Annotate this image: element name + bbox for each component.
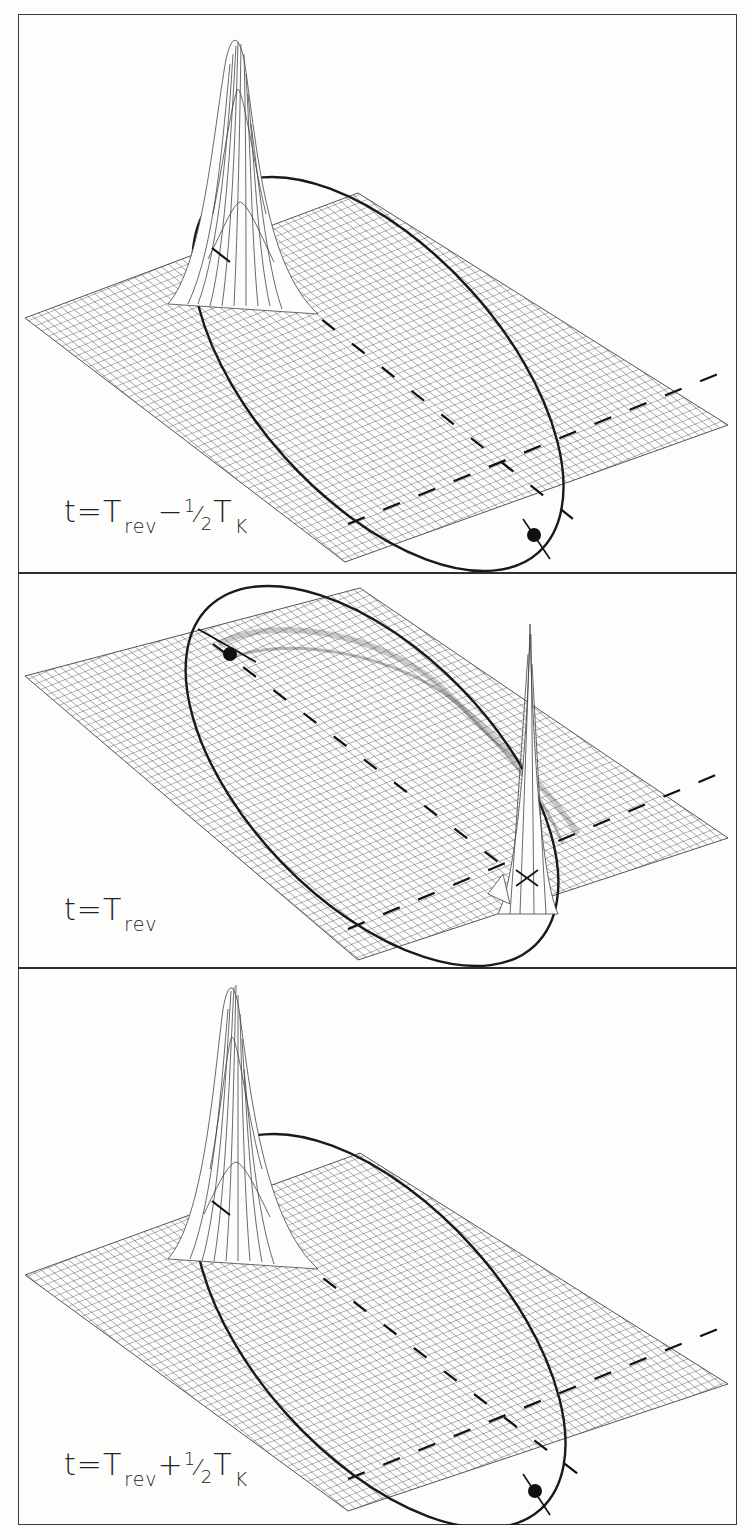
wavepacket-plot-3: [18, 969, 737, 1525]
panel-2: t=Trev: [18, 574, 737, 968]
time-label-1: t=Trev−1⁄2TK: [64, 494, 248, 529]
panel-1: t=Trev−1⁄2TK: [18, 14, 737, 573]
time-label-3: t=Trev+1⁄2TK: [64, 1447, 248, 1482]
position-marker: [223, 647, 237, 661]
panel-3: t=Trev+1⁄2TK: [18, 969, 737, 1525]
time-label-2: t=Trev: [64, 892, 158, 927]
wavepacket-plot-1: [18, 14, 737, 573]
